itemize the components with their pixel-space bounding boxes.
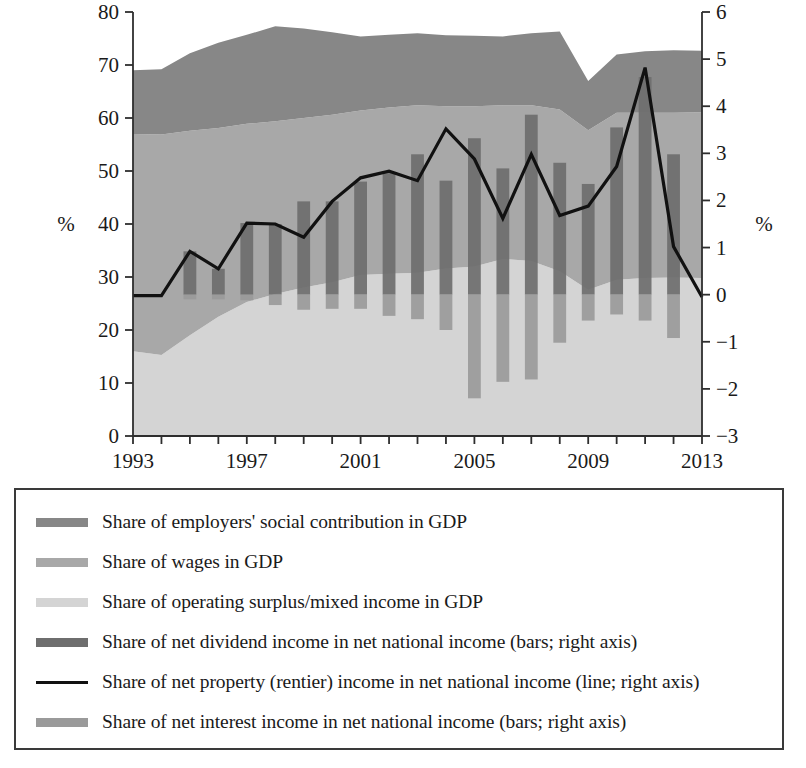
chart-legend: Share of employers' social contribution … — [14, 488, 784, 750]
x-axis-tick-label: 2009 — [567, 449, 609, 473]
bar-dividend-1996 — [212, 269, 225, 295]
bar-dividend-1998 — [269, 224, 282, 295]
left-axis-tick-label: 40 — [98, 212, 119, 236]
x-axis-tick-label: 1997 — [226, 449, 268, 473]
bar-interest-2000 — [326, 295, 339, 309]
bar-interest-2004 — [440, 295, 453, 330]
bar-interest-2012 — [667, 295, 680, 338]
right-axis-tick-label: 2 — [716, 188, 727, 212]
right-axis-tick-label: −2 — [716, 377, 738, 401]
left-axis-tick-label: 30 — [98, 265, 119, 289]
bar-interest-2010 — [610, 295, 623, 315]
left-axis-tick-label: 80 — [98, 0, 119, 24]
bar-dividend-2006 — [496, 168, 509, 294]
bar-dividend-2002 — [383, 173, 396, 295]
bar-dividend-2008 — [553, 163, 566, 295]
bar-interest-2001 — [354, 295, 367, 309]
right-axis-tick-label: 6 — [716, 0, 727, 24]
right-axis-tick-label: −3 — [716, 424, 738, 448]
bar-interest-1996 — [212, 295, 225, 300]
legend-item[interactable]: Share of operating surplus/mixed income … — [16, 582, 782, 622]
bar-dividend-2001 — [354, 182, 367, 295]
bar-interest-1997 — [240, 295, 253, 301]
x-axis-tick-label: 2005 — [453, 449, 495, 473]
legend-color-swatch — [36, 638, 88, 647]
bar-dividend-2004 — [440, 181, 453, 295]
left-axis-tick-label: 0 — [109, 424, 120, 448]
left-axis-tick-label: 70 — [98, 53, 119, 77]
bar-interest-2003 — [411, 295, 424, 320]
right-axis-tick-label: 3 — [716, 141, 727, 165]
legend-item-label: Share of employers' social contribution … — [102, 511, 467, 533]
x-axis-tick-label: 2013 — [681, 449, 723, 473]
bar-interest-2006 — [496, 295, 509, 382]
legend-item-label: Share of net interest income in net nati… — [102, 711, 626, 733]
bar-interest-1995 — [184, 295, 197, 300]
legend-item[interactable]: Share of net interest income in net nati… — [16, 702, 782, 742]
chart-plot-container: 01020304050607080−3−2−101234561993199720… — [0, 0, 806, 480]
bar-interest-2008 — [553, 295, 566, 343]
right-axis-tick-label: 4 — [716, 94, 727, 118]
left-axis-tick-label: 20 — [98, 318, 119, 342]
bar-interest-2002 — [383, 295, 396, 316]
bar-interest-2007 — [525, 295, 538, 380]
bar-dividend-1999 — [297, 201, 310, 294]
bar-interest-1998 — [269, 295, 282, 305]
legend-item-label: Share of wages in GDP — [102, 551, 283, 573]
legend-item[interactable]: Share of employers' social contribution … — [16, 502, 782, 542]
bar-dividend-1997 — [240, 223, 253, 295]
right-axis-tick-label: −1 — [716, 330, 738, 354]
stacked-area-bar-line-chart: 01020304050607080−3−2−101234561993199720… — [0, 0, 806, 480]
legend-list: Share of employers' social contribution … — [16, 490, 782, 742]
legend-item[interactable]: Share of net property (rentier) income i… — [16, 662, 782, 702]
legend-item[interactable]: Share of wages in GDP — [16, 542, 782, 582]
left-axis-tick-label: 10 — [98, 371, 119, 395]
left-axis-unit-label: % — [57, 212, 75, 236]
legend-color-swatch — [36, 558, 88, 567]
right-axis-tick-label: 0 — [716, 283, 727, 307]
right-axis-tick-label: 5 — [716, 47, 727, 71]
legend-color-swatch — [36, 518, 88, 527]
legend-color-swatch — [36, 598, 88, 607]
bar-interest-1999 — [297, 295, 310, 310]
right-axis-unit-label: % — [755, 212, 773, 236]
chart-page: 01020304050607080−3−2−101234561993199720… — [0, 0, 806, 768]
bar-interest-2005 — [468, 295, 481, 399]
bar-interest-2011 — [639, 295, 652, 321]
x-axis-tick-label: 2001 — [340, 449, 382, 473]
bar-interest-2009 — [582, 295, 595, 321]
bar-dividend-2000 — [326, 201, 339, 294]
bar-dividend-2011 — [639, 77, 652, 295]
legend-item-label: Share of net property (rentier) income i… — [102, 671, 699, 693]
left-axis-tick-label: 50 — [98, 159, 119, 183]
x-axis-tick-label: 1993 — [112, 449, 154, 473]
legend-item-label: Share of operating surplus/mixed income … — [102, 591, 483, 613]
legend-item[interactable]: Share of net dividend income in net nati… — [16, 622, 782, 662]
bar-dividend-2007 — [525, 115, 538, 295]
legend-line-swatch — [36, 681, 88, 684]
right-axis-tick-label: 1 — [716, 236, 727, 260]
legend-item-label: Share of net dividend income in net nati… — [102, 631, 637, 653]
legend-color-swatch — [36, 718, 88, 727]
left-axis-tick-label: 60 — [98, 106, 119, 130]
